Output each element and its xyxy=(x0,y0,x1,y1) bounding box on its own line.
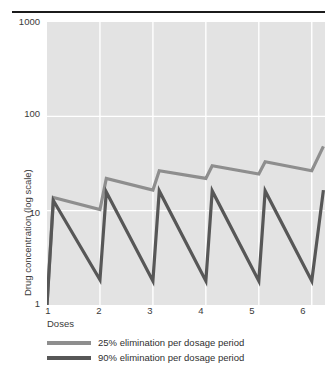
chart-figure: 1000 100 10 1 1 2 3 4 5 6 Doses Drug con… xyxy=(0,0,333,371)
axis-labels: 1000 100 10 1 1 2 3 4 5 6 xyxy=(0,0,333,371)
x-tick-6: 6 xyxy=(293,306,313,316)
x-tick-3: 3 xyxy=(140,306,160,316)
y-tick-10: 10 xyxy=(0,208,40,218)
y-tick-1: 1 xyxy=(0,299,40,309)
legend-label-25: 25% elimination per dosage period xyxy=(98,337,244,348)
x-tick-1: 1 xyxy=(38,306,58,316)
legend-swatch-icon-25 xyxy=(47,341,91,345)
y-axis-title: Drug concentration (log scale) xyxy=(22,169,33,296)
legend-label-90: 90% elimination per dosage period xyxy=(98,352,244,363)
x-tick-4: 4 xyxy=(191,306,211,316)
y-tick-1000: 1000 xyxy=(0,17,40,27)
x-tick-2: 2 xyxy=(89,306,109,316)
chart-legend: 25% elimination per dosage period 90% el… xyxy=(47,336,327,366)
y-tick-100: 100 xyxy=(0,109,40,119)
legend-item-25: 25% elimination per dosage period xyxy=(47,336,327,349)
x-axis-title: Doses xyxy=(47,318,74,329)
legend-item-90: 90% elimination per dosage period xyxy=(47,351,327,364)
legend-swatch-icon-90 xyxy=(47,356,91,360)
x-tick-5: 5 xyxy=(242,306,262,316)
